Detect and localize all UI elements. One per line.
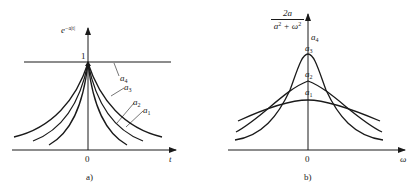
label-a3: a3 <box>124 83 132 93</box>
curve-a1 <box>49 63 88 145</box>
y-axis-label-a: e−a|t| <box>61 25 75 35</box>
y-axis-label-b: 2a a2 + ω2 <box>271 9 304 31</box>
label-b-a1: a1 <box>305 88 313 98</box>
label-a1: a1 <box>143 106 151 116</box>
figure: e−a|t| 1 a4 a3 a2 a1 0 t a) 2a a2 + ω2 a… <box>0 0 410 187</box>
label-a2: a2 <box>133 98 141 108</box>
exp-exponent: −a|t| <box>65 25 75 31</box>
fraction-numerator: 2a <box>271 9 304 19</box>
x-axis-label-t: t <box>169 155 172 164</box>
label-b-a2: a2 <box>305 70 313 80</box>
label-b-a3: a3 <box>305 44 313 54</box>
peak-value-label: 1 <box>81 52 86 61</box>
caption-a: a) <box>86 173 93 182</box>
label-b-a4: a4 <box>311 33 319 43</box>
origin-label-b: 0 <box>305 155 310 164</box>
curve-a3 <box>14 63 88 137</box>
panel-a <box>12 28 176 150</box>
x-axis-label-omega: ω <box>400 155 406 164</box>
fraction-denominator: a2 + ω2 <box>271 20 304 31</box>
origin-label-a: 0 <box>85 155 90 164</box>
lorentz-a1 <box>238 100 380 121</box>
caption-b: b) <box>304 173 312 182</box>
